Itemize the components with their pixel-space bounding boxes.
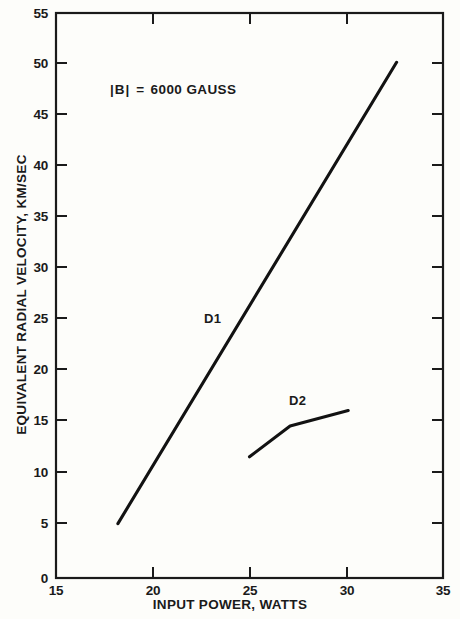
series-line-d1 — [118, 62, 397, 523]
y-tick-label-0: 0 — [8, 571, 48, 586]
plot-border — [56, 13, 443, 578]
y-tick-label-55: 55 — [8, 6, 48, 21]
x-tick-label-15: 15 — [49, 583, 64, 598]
axes-frame — [56, 13, 443, 578]
x-axis-top-ticks — [153, 13, 347, 24]
y-axis-ticks — [56, 63, 67, 523]
y-tick-label-10: 10 — [8, 465, 48, 480]
data-series-group — [118, 62, 397, 523]
x-axis-title: INPUT POWER, WATTS — [0, 597, 460, 612]
x-tick-label-35: 35 — [436, 583, 451, 598]
series-line-d2 — [250, 411, 349, 457]
y-axis-right-ticks — [432, 63, 443, 523]
annotation-value: 6000 GAUSS — [151, 82, 237, 97]
chart-figure: 55 50 45 40 35 30 25 20 15 10 5 0 15 20 … — [0, 0, 460, 619]
x-tick-label-25: 25 — [243, 583, 258, 598]
x-tick-label-20: 20 — [146, 583, 161, 598]
annotation-equals: = — [130, 82, 150, 97]
annotation-symbol: |B| — [110, 82, 130, 97]
magnetic-field-annotation: |B|=6000 GAUSS — [110, 82, 236, 97]
y-axis-title: EQUIVALENT RADIAL VELOCITY, KM/SEC — [14, 125, 29, 465]
x-tick-label-30: 30 — [340, 583, 355, 598]
y-tick-label-5: 5 — [8, 516, 48, 531]
series-label-d1: D1 — [204, 311, 221, 326]
series-label-d2: D2 — [289, 393, 306, 408]
x-axis-ticks — [153, 567, 347, 578]
y-tick-label-45: 45 — [8, 107, 48, 122]
y-tick-label-50: 50 — [8, 56, 48, 71]
